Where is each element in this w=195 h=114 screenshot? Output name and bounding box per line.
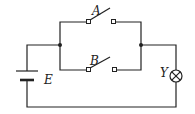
circuit-diagram: E A B Y <box>0 0 195 114</box>
switch-b-label: B <box>89 54 99 68</box>
wire-right-top <box>141 45 176 70</box>
switch-a-left-contact <box>87 20 91 24</box>
switch-a-label: A <box>91 4 101 18</box>
branch-a-left-wire <box>60 22 86 45</box>
switch-b-right-contact <box>113 68 117 72</box>
branch-b-left-wire <box>60 45 86 70</box>
battery-label: E <box>43 73 53 87</box>
branch-a-right-wire <box>116 22 142 45</box>
branch-b-right-wire <box>117 45 142 70</box>
wire-left-top <box>27 45 60 71</box>
switch-a-right-contact <box>112 20 116 24</box>
switch-b-left-contact <box>87 68 91 72</box>
lamp-label: Y <box>160 66 169 80</box>
